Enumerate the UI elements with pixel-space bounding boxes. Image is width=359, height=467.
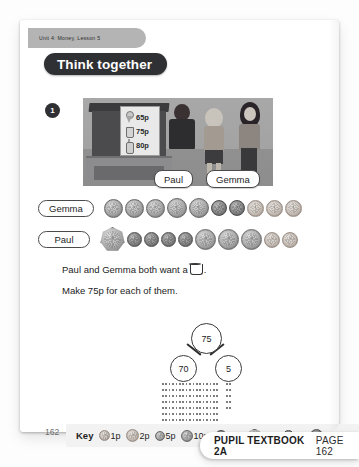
coin-face bbox=[181, 235, 190, 244]
page-root: Unit 4: Money, Lesson 5 Think together 1… bbox=[0, 0, 359, 467]
girl-top bbox=[239, 124, 260, 150]
answer-line[interactable] bbox=[162, 389, 219, 391]
coin-face bbox=[199, 233, 213, 247]
menu-row: 75p bbox=[123, 125, 157, 138]
coin-face bbox=[245, 233, 259, 247]
menu-price: 65p bbox=[136, 113, 149, 122]
scene-name-text: Gemma bbox=[216, 174, 250, 185]
scene-name-text: Paul bbox=[164, 174, 183, 185]
key-coin-icon bbox=[181, 430, 193, 442]
cup-icon bbox=[125, 125, 133, 138]
boy-torso bbox=[204, 126, 224, 152]
answer-line[interactable] bbox=[162, 413, 219, 415]
unit-tab-label: Unit 4: Money, Lesson 5 bbox=[39, 35, 100, 41]
menu-price: 75p bbox=[136, 127, 149, 136]
coin-row-name: Gemma bbox=[49, 203, 83, 214]
question-number-badge: 1 bbox=[45, 103, 60, 118]
coin-face bbox=[170, 202, 183, 215]
coin-row-name: Paul bbox=[54, 234, 73, 245]
answer-line[interactable] bbox=[226, 407, 233, 409]
key-coin-label: 2p bbox=[139, 431, 149, 441]
coin-group-gemma bbox=[104, 198, 304, 218]
coin bbox=[241, 229, 262, 250]
coin bbox=[218, 229, 239, 250]
coin bbox=[264, 232, 280, 248]
unit-tab: Unit 4: Money, Lesson 5 bbox=[28, 28, 146, 48]
answer-line[interactable] bbox=[226, 389, 233, 391]
textbook-page-sheet: Unit 4: Money, Lesson 5 Think together 1… bbox=[20, 20, 339, 432]
coin bbox=[285, 200, 302, 217]
boy-shorts bbox=[205, 150, 223, 164]
coin-row-label-paul: Paul bbox=[38, 231, 90, 248]
scene-name-label-paul: Paul bbox=[154, 170, 193, 188]
answer-line[interactable] bbox=[226, 383, 233, 385]
coin bbox=[189, 198, 209, 218]
coin bbox=[146, 199, 165, 218]
menu-row: 80p bbox=[123, 139, 157, 152]
coin-face bbox=[164, 235, 173, 244]
answer-line[interactable] bbox=[162, 395, 219, 397]
footer-book-badge: PUPIL TEXTBOOK 2A PAGE 162 bbox=[200, 432, 359, 459]
coin-face bbox=[192, 202, 205, 215]
answer-line[interactable] bbox=[162, 419, 219, 421]
coin bbox=[161, 232, 176, 247]
key-coin-label: 5p bbox=[165, 431, 175, 441]
coin-face bbox=[222, 233, 236, 247]
answer-line[interactable] bbox=[162, 407, 219, 409]
scene-name-label-gemma: Gemma bbox=[206, 170, 260, 188]
footer-page-label: PAGE 162 bbox=[316, 435, 359, 457]
girl-face bbox=[244, 107, 256, 121]
coin bbox=[266, 200, 283, 217]
coin bbox=[100, 227, 125, 252]
part-whole-part-right: 5 bbox=[215, 355, 242, 382]
ice-cream-cone-icon bbox=[125, 111, 133, 124]
coin bbox=[127, 232, 142, 247]
price-menu-board: 65p 75p 80p bbox=[120, 106, 160, 156]
bottle-icon bbox=[125, 139, 133, 152]
coin-face bbox=[288, 203, 299, 214]
question-text-1-before: Paul and Gemma both want a bbox=[62, 264, 188, 275]
coin bbox=[125, 199, 144, 218]
answer-lines-left[interactable] bbox=[162, 383, 219, 425]
menu-price: 80p bbox=[136, 141, 149, 150]
menu-row: 65p bbox=[123, 111, 157, 124]
answer-line[interactable] bbox=[226, 401, 233, 403]
question-text-1-after: . bbox=[204, 264, 207, 275]
vendor-torso bbox=[169, 119, 195, 149]
coin bbox=[178, 232, 193, 247]
answer-line[interactable] bbox=[162, 401, 219, 403]
coin-face bbox=[129, 432, 137, 440]
coin-face bbox=[128, 202, 140, 214]
key-item: 5p bbox=[155, 431, 175, 441]
key-item: 2p bbox=[126, 429, 149, 442]
coin bbox=[247, 200, 264, 217]
key-coin-icon bbox=[155, 431, 165, 441]
question-text-line-1: Paul and Gemma both want a. bbox=[62, 263, 206, 276]
key-coin-icon bbox=[126, 429, 139, 442]
coin-face bbox=[184, 432, 191, 439]
coin bbox=[211, 200, 227, 216]
boy-head bbox=[205, 108, 223, 128]
coin-face bbox=[232, 203, 242, 213]
coin-face bbox=[107, 202, 119, 214]
coin-face bbox=[250, 203, 261, 214]
coin-row-paul: Paul bbox=[38, 227, 300, 252]
key-item: 1p bbox=[99, 430, 120, 441]
answer-lines-right[interactable] bbox=[226, 383, 233, 413]
answer-line[interactable] bbox=[226, 395, 233, 397]
key-label: Key bbox=[76, 430, 93, 441]
coin-face bbox=[267, 234, 277, 244]
coin-face bbox=[285, 234, 295, 244]
coin-face bbox=[130, 235, 139, 244]
coin-face bbox=[149, 202, 161, 214]
page-number: 162 bbox=[45, 427, 59, 437]
answer-line[interactable] bbox=[162, 383, 219, 385]
coin bbox=[282, 232, 298, 248]
coin-face bbox=[158, 433, 164, 439]
coin bbox=[144, 232, 159, 247]
key-coin-icon bbox=[99, 430, 110, 441]
coin-row-gemma: Gemma bbox=[38, 198, 304, 218]
banner-title: Think together bbox=[57, 57, 152, 72]
coin-face bbox=[104, 231, 121, 248]
question-text-line-2: Make 75p for each of them. bbox=[62, 285, 178, 296]
